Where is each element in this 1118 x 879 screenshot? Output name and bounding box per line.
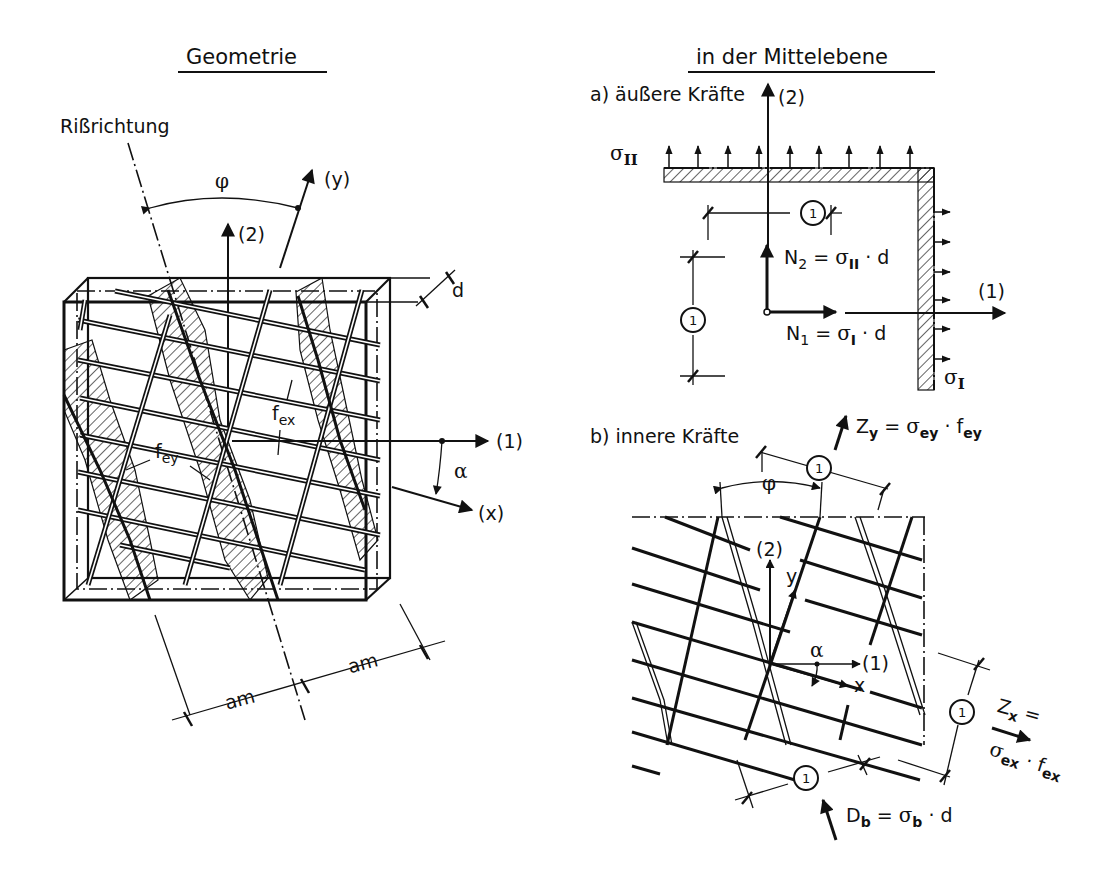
- phi-arc: [150, 198, 298, 208]
- phi-label-b: φ: [762, 471, 776, 495]
- axis-2-b-label: (2): [756, 538, 783, 560]
- top-edge-hatch: [664, 168, 934, 182]
- axis-2-a-label: (2): [778, 86, 805, 108]
- stress-II-label: σII: [610, 141, 638, 169]
- right-edge-hatch: [918, 168, 934, 390]
- svg-text:1: 1: [815, 461, 823, 476]
- Zy-formula: Zy = σey · fey: [856, 414, 982, 441]
- spacing-dimensions: am am: [155, 604, 445, 726]
- x-axis-b-label: x: [854, 674, 865, 696]
- y-axis-label: (y): [324, 168, 350, 190]
- y-axis-b-label: y: [786, 565, 797, 587]
- crack-band-left: [64, 340, 158, 600]
- y-axis: [280, 170, 312, 268]
- external-forces-section: a) äußere Kräfte σII: [590, 83, 1005, 393]
- svg-text:1: 1: [689, 313, 697, 328]
- phi-label: φ: [215, 169, 229, 193]
- axis-2-label: (2): [238, 223, 265, 245]
- x-axis: [392, 487, 472, 510]
- svg-text:d: d: [452, 279, 464, 301]
- N1-formula: N1 = σI · d: [786, 321, 886, 348]
- geometry-title: Geometrie: [186, 45, 297, 69]
- rebar-x-leader-1: [287, 380, 292, 400]
- alpha-label: α: [454, 459, 468, 483]
- svg-text:1: 1: [809, 206, 817, 221]
- unit-dimension-bottom-b: 1: [735, 755, 880, 808]
- Zx-formula-line-2: σex · fex: [986, 736, 1066, 785]
- stress-II-arrows: [669, 146, 910, 168]
- Db-vector: [823, 800, 836, 840]
- N2-formula: N2 = σII · d: [784, 245, 889, 272]
- unit-dimension-left-a: 1: [680, 250, 725, 385]
- axis-1-label: (1): [496, 430, 523, 452]
- section-a-label: a) äußere Kräfte: [590, 83, 745, 105]
- svg-text:1: 1: [958, 705, 966, 720]
- internal-forces-section: b) innere Kräfte: [590, 414, 1066, 840]
- rebar-y-label: fey: [155, 440, 179, 466]
- Zy-vector: [835, 416, 846, 450]
- axis-1-a-label: (1): [978, 280, 1005, 302]
- crack-direction-label: Rißrichtung: [60, 115, 170, 137]
- unit-dimension-top-a: 1: [703, 201, 842, 240]
- rebar-x-label: fex: [272, 402, 295, 428]
- svg-text:1: 1: [802, 771, 810, 786]
- diagram-canvas: Geometrie Rißrichtung φ (y) (2): [0, 0, 1118, 879]
- rebar-x-leader-2: [278, 430, 280, 455]
- alpha-arc: [436, 441, 442, 494]
- Zx-formula-line-1: Zx =: [994, 694, 1043, 731]
- axis-1-b-label: (1): [862, 652, 889, 674]
- spacing-label-right: am: [345, 648, 380, 677]
- geometry-panel: Geometrie Rißrichtung φ (y) (2): [60, 45, 523, 726]
- x-axis-label: (x): [478, 502, 504, 524]
- thickness-dimension: d: [366, 270, 464, 308]
- alpha-label-b: α: [810, 638, 824, 662]
- midplane-title: in der Mittelebene: [696, 45, 888, 69]
- x-axis-b: [770, 664, 848, 686]
- stress-I-label: σI: [944, 365, 965, 393]
- stress-I-arrows: [934, 212, 950, 359]
- spacing-label-left: am: [222, 684, 257, 713]
- section-b-label: b) innere Kräfte: [590, 425, 739, 447]
- midplane-panel: in der Mittelebene a) äußere Kräfte: [590, 45, 1066, 840]
- Db-formula: Db = σb · d: [846, 803, 953, 830]
- unit-dimension-top-b: 1: [756, 446, 890, 510]
